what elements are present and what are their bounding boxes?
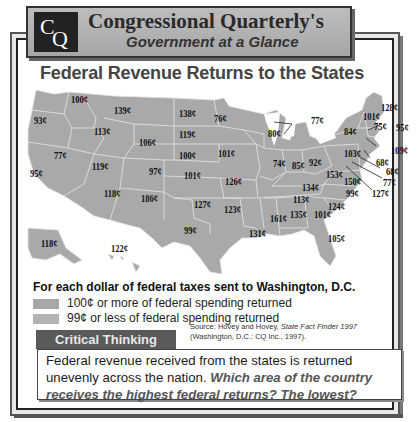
- state-value-label: 139¢: [114, 105, 131, 116]
- state-value-label: 113¢: [94, 126, 111, 137]
- state-value-label: 68¢: [386, 166, 399, 177]
- state-value-label: 95¢: [30, 168, 43, 179]
- state-value-label: 131¢: [249, 228, 266, 239]
- state-value-label: 100¢: [71, 94, 88, 105]
- state-value-label: 138¢: [179, 108, 196, 119]
- state-value-label: 76¢: [214, 113, 227, 124]
- state-value-label: 85¢: [292, 160, 305, 171]
- state-value-label: 95¢: [396, 122, 409, 133]
- state-value-label: 101¢: [218, 148, 235, 159]
- state-value-label: 122¢: [111, 243, 128, 254]
- state-value-label: 113¢: [293, 194, 310, 205]
- state-value-label: 101¢: [314, 209, 331, 220]
- state-value-label: 99¢: [346, 188, 359, 199]
- state-value-label: 128¢: [381, 102, 398, 113]
- legend-swatch-high: [33, 299, 59, 309]
- state-value-label: 106¢: [139, 137, 156, 148]
- state-value-label: 153¢: [326, 169, 343, 180]
- source-publisher: (Washington, D.C.: CQ Inc., 1997).: [190, 332, 306, 341]
- state-value-label: 93¢: [34, 115, 47, 126]
- state-value-label: 127¢: [372, 188, 389, 199]
- us-map: 100¢93¢139¢138¢76¢113¢119¢106¢80¢77¢77¢1…: [24, 88, 384, 278]
- state-value-label: 77¢: [54, 150, 67, 161]
- state-value-label: 119¢: [92, 161, 109, 172]
- state-value-label: 101¢: [184, 170, 201, 181]
- map-title: Federal Revenue Returns to the States: [40, 62, 364, 84]
- state-value-label: 134¢: [302, 182, 319, 193]
- state-value-label: 80¢: [268, 128, 281, 139]
- header-band: C Q Congressional Quarterly's Government…: [26, 6, 352, 58]
- state-value-label: 77¢: [383, 177, 396, 188]
- state-value-label: 126¢: [225, 176, 242, 187]
- us-map-shape: [24, 88, 384, 278]
- state-value-label: 100¢: [179, 150, 196, 161]
- state-value-label: 92¢: [309, 157, 322, 168]
- source-citation: Source: Hovey and Hovey, State Fact Find…: [190, 322, 357, 342]
- critical-thinking-tab: Critical Thinking: [36, 330, 176, 349]
- legend-item-high: 100¢ or more of federal spending returne…: [33, 296, 292, 310]
- state-value-label: 77¢: [311, 115, 324, 126]
- brand-subtitle: Government at a Glance: [126, 33, 299, 50]
- source-title: State Fact Finder 1997: [281, 322, 357, 331]
- state-value-label: 74¢: [273, 158, 286, 169]
- state-value-label: 150¢: [344, 176, 361, 187]
- state-value-label: 135¢: [290, 209, 307, 220]
- state-value-label: 118¢: [41, 238, 58, 249]
- state-value-label: 109¢: [391, 145, 408, 156]
- critical-thinking-question: Federal revenue received from the states…: [37, 349, 402, 400]
- state-value-label: 75¢: [374, 121, 387, 132]
- cq-logo: C Q: [34, 12, 78, 52]
- legend-heading: For each dollar of federal taxes sent to…: [33, 280, 355, 294]
- state-value-label: 97¢: [149, 166, 162, 177]
- state-value-label: 84¢: [344, 126, 357, 137]
- state-value-label: 123¢: [224, 204, 241, 215]
- source-prefix: Source: Hovey and Hovey,: [190, 322, 281, 331]
- state-value-label: 127¢: [194, 199, 211, 210]
- logo-letter-q: Q: [52, 26, 68, 52]
- state-value-label: 105¢: [328, 233, 345, 244]
- state-value-label: 118¢: [104, 188, 121, 199]
- state-value-label: 99¢: [184, 225, 197, 236]
- legend-label-high: 100¢ or more of federal spending returne…: [67, 296, 292, 310]
- state-value-label: 161¢: [270, 213, 287, 224]
- legend-swatch-low: [33, 314, 59, 324]
- state-value-label: 119¢: [179, 129, 196, 140]
- brand-title: Congressional Quarterly's: [88, 9, 324, 34]
- state-value-label: 186¢: [141, 193, 158, 204]
- state-value-label: 103¢: [344, 148, 361, 159]
